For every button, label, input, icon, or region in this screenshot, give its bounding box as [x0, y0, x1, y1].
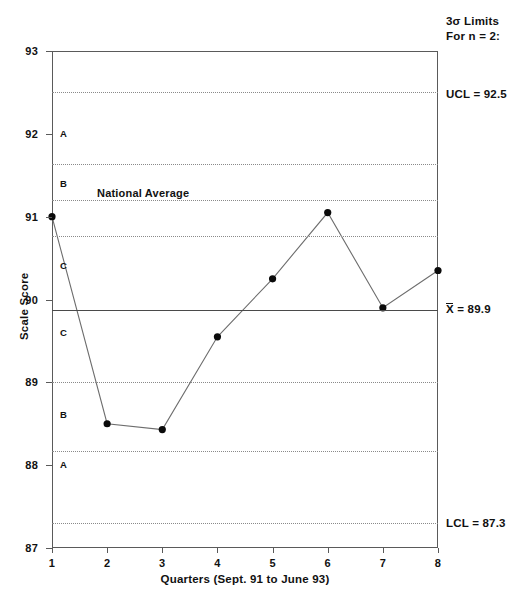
x-bar-symbol: X [446, 304, 454, 316]
data-point [159, 426, 166, 433]
y-axis-tick-label: 88 [4, 460, 38, 471]
gridline [52, 164, 438, 165]
y-axis-tick-label: 93 [4, 46, 38, 57]
x-axis-tick-mark [217, 548, 218, 553]
data-series-layer [52, 51, 438, 548]
data-point [269, 275, 276, 282]
y-axis-tick-label: 89 [4, 377, 38, 388]
zone-letter: C [60, 328, 67, 338]
gridline [52, 92, 438, 93]
x-axis-tick-label: 8 [418, 558, 458, 569]
center-line [52, 310, 438, 311]
gridline [52, 451, 438, 452]
data-point [104, 420, 111, 427]
center-line-value: = 89.9 [454, 303, 491, 315]
x-axis-tick-label: 1 [32, 558, 72, 569]
y-axis-tick-mark [46, 465, 52, 466]
y-axis-tick-label: 92 [4, 129, 38, 140]
national-average-annotation: National Average [97, 188, 189, 199]
sigma-limits-note: 3σ Limits For n = 2: [446, 14, 500, 44]
y-axis-tick-mark [46, 51, 52, 52]
sigma-limits-line2: For n = 2: [446, 30, 500, 42]
control-chart: 93929190898887 12345678 ABCCBA Scale Sco… [0, 0, 525, 600]
sigma-limits-line1: 3σ Limits [446, 15, 499, 27]
zone-letter: A [60, 129, 67, 139]
x-axis-tick-mark [438, 548, 439, 553]
x-axis-tick-label: 2 [87, 558, 127, 569]
x-axis-tick-mark [273, 548, 274, 553]
data-point-group [48, 209, 441, 433]
x-axis-tick-label: 6 [308, 558, 348, 569]
x-axis-tick-label: 3 [142, 558, 182, 569]
gridline [52, 200, 438, 201]
y-axis-tick-mark [46, 300, 52, 301]
x-axis-tick-mark [162, 548, 163, 553]
lcl-label: LCL = 87.3 [446, 518, 506, 530]
x-axis-tick-label: 7 [363, 558, 403, 569]
x-axis-tick-mark [328, 548, 329, 553]
x-axis-tick-label: 5 [253, 558, 293, 569]
center-line-label: X = 89.9 [446, 304, 491, 316]
zone-letter: B [60, 179, 67, 189]
zone-letter: B [60, 410, 67, 420]
data-point [324, 209, 331, 216]
ucl-label: UCL = 92.5 [446, 89, 507, 101]
y-axis-tick-mark [46, 134, 52, 135]
x-axis-title: Quarters (Sept. 91 to June 93) [52, 573, 438, 585]
y-axis-tick-mark [46, 217, 52, 218]
y-axis-tick-label: 91 [4, 212, 38, 223]
data-point [434, 267, 441, 274]
zone-letter: C [60, 261, 67, 271]
gridline [52, 236, 438, 237]
gridline [52, 523, 438, 524]
x-axis-tick-mark [383, 548, 384, 553]
data-point [214, 333, 221, 340]
y-axis-title: Scale Score [18, 273, 30, 340]
zone-letter: A [60, 460, 67, 470]
x-axis-tick-label: 4 [197, 558, 237, 569]
data-series-line [52, 213, 438, 430]
y-axis-tick-label: 87 [4, 543, 38, 554]
x-axis-tick-mark [107, 548, 108, 553]
x-axis-tick-mark [52, 548, 53, 553]
gridline [52, 382, 438, 383]
